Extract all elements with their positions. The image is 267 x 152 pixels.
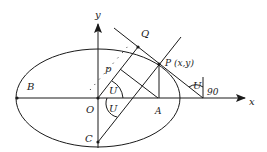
point-Q	[136, 45, 139, 48]
point-C	[96, 140, 99, 143]
line-OQ	[98, 47, 138, 98]
label-C: C	[85, 133, 93, 144]
angle-label-u2: U	[109, 103, 118, 114]
ellipse-geometry-diagram: y x Q P (x,y) p B O A C U U U 90	[0, 0, 267, 152]
label-Q: Q	[141, 28, 149, 39]
angle-label-90: 90	[207, 87, 219, 97]
label-A: A	[154, 106, 162, 116]
angle-label-u3: U	[193, 80, 202, 91]
label-B: B	[26, 81, 34, 92]
angle-label-u1: U	[109, 85, 118, 96]
label-O: O	[86, 104, 94, 115]
y-axis-label: y	[94, 9, 101, 20]
label-p: p	[105, 63, 112, 74]
point-P	[157, 62, 160, 65]
label-P: P (x,y)	[164, 58, 194, 68]
point-O	[96, 96, 99, 99]
x-axis-label: x	[249, 96, 255, 107]
point-B	[15, 96, 18, 99]
